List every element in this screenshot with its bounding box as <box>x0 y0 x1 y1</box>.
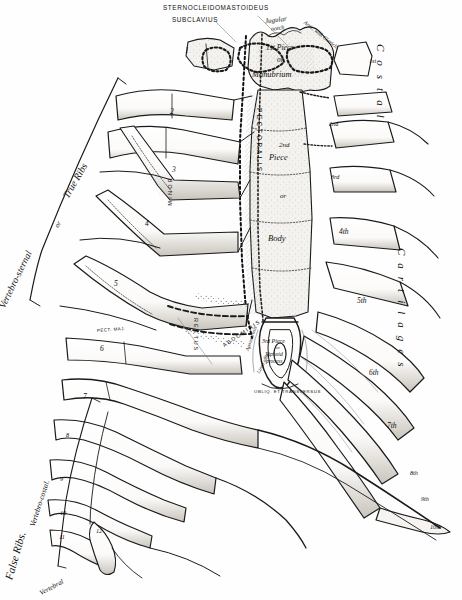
label-rectus-vertical: RECTUS <box>193 318 198 352</box>
label-second-piece-num: 2nd <box>279 142 290 149</box>
label-manubrium: Manubrium <box>252 71 292 79</box>
label-subclavius: SUBCLAVIUS <box>172 17 218 23</box>
rib-number-left-10: 10 <box>60 510 66 516</box>
rib-number-left-2: 2 <box>170 108 174 116</box>
rib-number-left-6: 6 <box>100 345 104 353</box>
label-second-piece: Piece <box>269 154 288 162</box>
rib-number-left-12: 12 <box>96 528 102 534</box>
label-sternocleidomastoideus: STERNOCLEIDOMASTOIDEUS <box>163 5 269 11</box>
rib-number-left-9: 9 <box>60 476 63 482</box>
label-costal: Costal <box>375 44 386 127</box>
cartilage-number-8: 8th <box>410 470 418 476</box>
cartilage-number-6: 6th <box>369 369 379 377</box>
skeleton-drawing <box>0 0 462 600</box>
cartilage-number-4: 4th <box>339 228 349 236</box>
cartilage-number-2: 2nd <box>329 121 338 127</box>
label-third-piece: 3rd Piece <box>262 338 285 344</box>
rib-number-left-5: 5 <box>114 280 118 288</box>
cartilage-number-1: 1st <box>369 58 376 64</box>
label-cartilages: Cartilages <box>396 248 407 374</box>
rib-number-left-1: 1 <box>185 47 189 55</box>
rib-number-left-8: 8 <box>66 432 69 438</box>
cartilage-number-10: 10th <box>430 524 441 530</box>
label-pectoralis-minor-vertical: MINOR <box>168 176 174 206</box>
label-first-piece-or: or <box>277 56 284 63</box>
label-second-piece-or: or <box>280 193 286 200</box>
cartilage-number-7: 7th <box>387 422 397 430</box>
label-third-piece-or: or <box>276 346 280 351</box>
anatomical-plate: STERNOCLEIDOMASTOIDEUS SUBCLAVIUS Jugula… <box>0 0 462 600</box>
label-first-piece: 1st Piece <box>266 44 294 52</box>
label-body: Body <box>268 234 286 243</box>
label-obliq-et-transversus: OBLIQ. ET TRANSVERSUS <box>254 390 321 394</box>
label-xiphoid-process: process <box>266 359 282 364</box>
rib-number-left-11: 11 <box>59 534 65 540</box>
cartilage-number-9: 9th <box>421 496 429 502</box>
cartilage-number-3: 3rd <box>331 174 339 180</box>
rib-number-left-3: 3 <box>172 166 176 174</box>
rib-number-left-7: 7 <box>83 393 87 401</box>
label-pectoralis-major-vertical: PECTORALIS <box>255 108 262 174</box>
rib-number-left-4: 4 <box>145 220 149 228</box>
cartilage-number-5: 5th <box>357 297 367 305</box>
